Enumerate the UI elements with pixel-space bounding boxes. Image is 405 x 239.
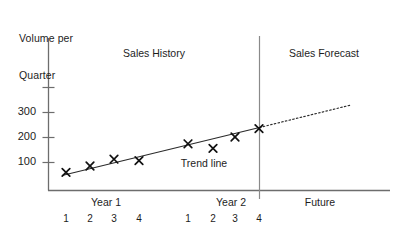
y-axis-title: Volume per Quarter bbox=[19, 7, 73, 106]
x-tick-label-y2-q3: 3 bbox=[227, 213, 243, 225]
x-tick-label-y1-q2: 2 bbox=[82, 213, 98, 225]
data-point-y2q3 bbox=[231, 133, 239, 141]
region-label-sales-forecast: Sales Forecast bbox=[274, 47, 374, 59]
x-tick-label-y2-q1: 1 bbox=[180, 213, 196, 225]
period-label-future: Future bbox=[292, 196, 348, 208]
y-tick-label-300: 300 bbox=[6, 105, 36, 118]
region-label-sales-history: Sales History bbox=[99, 47, 209, 59]
y-axis-title-line-2: Quarter bbox=[19, 69, 73, 81]
y-axis-title-line-1: Volume per bbox=[19, 32, 73, 44]
trend-line-forecast-dotted bbox=[260, 105, 352, 128]
x-tick-label-y1-q4: 4 bbox=[131, 213, 147, 225]
data-point-y1q4 bbox=[135, 157, 143, 165]
y-tick-label-100: 100 bbox=[6, 155, 36, 168]
period-label-year-2: Year 2 bbox=[203, 196, 259, 208]
x-tick-label-y1-q1: 1 bbox=[58, 213, 74, 225]
x-tick-label-y1-q3: 3 bbox=[106, 213, 122, 225]
data-point-y2q2 bbox=[209, 145, 217, 153]
sales-forecast-chart: Volume per Quarter 300 200 100 Sales His… bbox=[0, 0, 405, 239]
period-label-year-1: Year 1 bbox=[78, 196, 134, 208]
data-point-y1q3 bbox=[110, 155, 118, 163]
y-tick-label-200: 200 bbox=[6, 130, 36, 143]
x-tick-label-y2-q2: 2 bbox=[205, 213, 221, 225]
x-tick-label-y2-q4: 4 bbox=[251, 213, 267, 225]
trend-line-label: Trend line bbox=[161, 157, 247, 169]
